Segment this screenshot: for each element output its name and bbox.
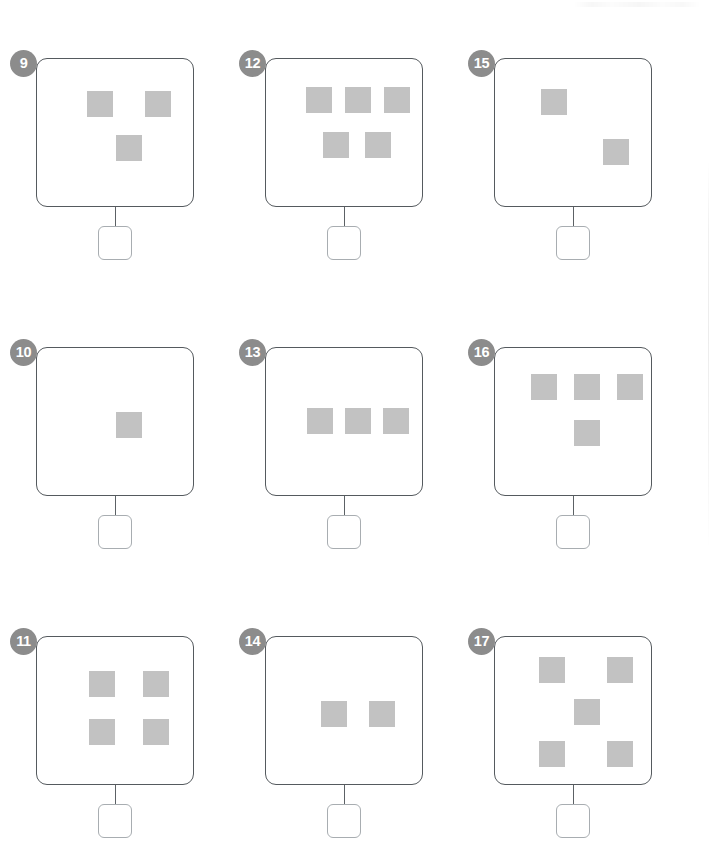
problem-15: 15 bbox=[458, 44, 696, 334]
count-square bbox=[603, 139, 629, 165]
counting-frame bbox=[265, 347, 423, 496]
counting-frame bbox=[494, 58, 652, 207]
count-square bbox=[345, 87, 371, 113]
problem-number-badge: 17 bbox=[468, 628, 495, 655]
connector-line bbox=[344, 207, 345, 226]
connector-line bbox=[573, 207, 574, 226]
count-square bbox=[116, 412, 142, 438]
count-square bbox=[384, 87, 410, 113]
answer-box[interactable] bbox=[98, 804, 132, 838]
count-square bbox=[306, 87, 332, 113]
counting-frame bbox=[265, 58, 423, 207]
problem-number-badge: 15 bbox=[468, 50, 495, 77]
count-square bbox=[307, 408, 333, 434]
problem-10: 10 bbox=[0, 333, 238, 623]
count-square bbox=[607, 741, 633, 767]
count-square bbox=[574, 420, 600, 446]
problem-14: 14 bbox=[229, 622, 467, 856]
count-square bbox=[531, 374, 557, 400]
count-square bbox=[345, 408, 371, 434]
squares-area bbox=[37, 348, 193, 495]
count-square bbox=[607, 657, 633, 683]
counting-frame bbox=[36, 347, 194, 496]
squares-area bbox=[266, 59, 422, 206]
count-square bbox=[89, 671, 115, 697]
connector-line bbox=[115, 785, 116, 804]
count-square bbox=[143, 671, 169, 697]
connector-line bbox=[573, 496, 574, 515]
problem-16: 16 bbox=[458, 333, 696, 623]
count-square bbox=[539, 657, 565, 683]
connector-line bbox=[344, 785, 345, 804]
answer-box[interactable] bbox=[98, 226, 132, 260]
squares-area bbox=[495, 59, 651, 206]
count-square bbox=[383, 408, 409, 434]
squares-area bbox=[266, 348, 422, 495]
problem-number-badge: 9 bbox=[10, 50, 37, 77]
problem-number-badge: 16 bbox=[468, 339, 495, 366]
counting-frame bbox=[265, 636, 423, 785]
connector-line bbox=[344, 496, 345, 515]
answer-box[interactable] bbox=[327, 804, 361, 838]
count-square bbox=[365, 132, 391, 158]
count-square bbox=[116, 135, 142, 161]
squares-area bbox=[266, 637, 422, 784]
count-square bbox=[539, 741, 565, 767]
answer-box[interactable] bbox=[98, 515, 132, 549]
squares-area bbox=[37, 59, 193, 206]
count-square bbox=[369, 701, 395, 727]
count-square bbox=[574, 374, 600, 400]
problem-number-badge: 12 bbox=[239, 50, 266, 77]
answer-box[interactable] bbox=[327, 226, 361, 260]
counting-frame bbox=[494, 347, 652, 496]
count-square bbox=[87, 91, 113, 117]
problem-number-badge: 13 bbox=[239, 339, 266, 366]
problem-17: 17 bbox=[458, 622, 696, 856]
count-square bbox=[617, 374, 643, 400]
connector-line bbox=[115, 207, 116, 226]
count-square bbox=[321, 701, 347, 727]
problem-11: 11 bbox=[0, 622, 238, 856]
problem-number-badge: 14 bbox=[239, 628, 266, 655]
count-square bbox=[541, 89, 567, 115]
counting-frame bbox=[494, 636, 652, 785]
problem-13: 13 bbox=[229, 333, 467, 623]
problem-number-badge: 11 bbox=[10, 628, 37, 655]
connector-line bbox=[115, 496, 116, 515]
connector-line bbox=[573, 785, 574, 804]
counting-frame bbox=[36, 58, 194, 207]
answer-box[interactable] bbox=[556, 804, 590, 838]
count-square bbox=[145, 91, 171, 117]
problem-9: 9 bbox=[0, 44, 238, 334]
count-square bbox=[323, 132, 349, 158]
problem-number-badge: 10 bbox=[10, 339, 37, 366]
count-square bbox=[574, 699, 600, 725]
answer-box[interactable] bbox=[556, 515, 590, 549]
problem-12: 12 bbox=[229, 44, 467, 334]
count-square bbox=[143, 719, 169, 745]
squares-area bbox=[495, 637, 651, 784]
counting-frame bbox=[36, 636, 194, 785]
squares-area bbox=[37, 637, 193, 784]
count-square bbox=[89, 719, 115, 745]
answer-box[interactable] bbox=[327, 515, 361, 549]
worksheet-grid: 91011121314151617 bbox=[0, 0, 714, 856]
answer-box[interactable] bbox=[556, 226, 590, 260]
squares-area bbox=[495, 348, 651, 495]
